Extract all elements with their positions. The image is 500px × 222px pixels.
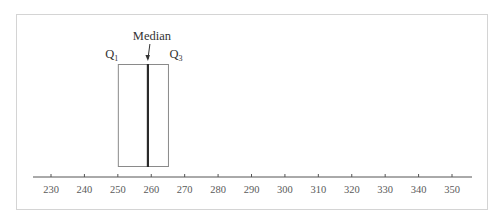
median-label: Median [133, 29, 172, 43]
x-tick-label: 290 [244, 184, 260, 195]
q1-label: Q1 [105, 47, 118, 63]
x-tick-label: 310 [310, 184, 326, 195]
boxplot-chart: 230240250260270280290300310320330340350M… [0, 0, 500, 222]
x-tick-label: 340 [411, 184, 427, 195]
x-tick-label: 280 [210, 184, 226, 195]
x-tick-label: 270 [177, 184, 193, 195]
x-tick-label: 240 [77, 184, 93, 195]
q3-label: Q3 [169, 47, 182, 63]
x-tick-label: 250 [110, 184, 126, 195]
x-tick-label: 350 [444, 184, 460, 195]
median-arrow-head [145, 55, 150, 61]
x-tick-label: 330 [377, 184, 393, 195]
x-tick-label: 300 [277, 184, 293, 195]
x-tick-label: 230 [43, 184, 59, 195]
box-iqr [118, 65, 168, 167]
x-tick-label: 320 [344, 184, 360, 195]
x-tick-label: 260 [143, 184, 159, 195]
